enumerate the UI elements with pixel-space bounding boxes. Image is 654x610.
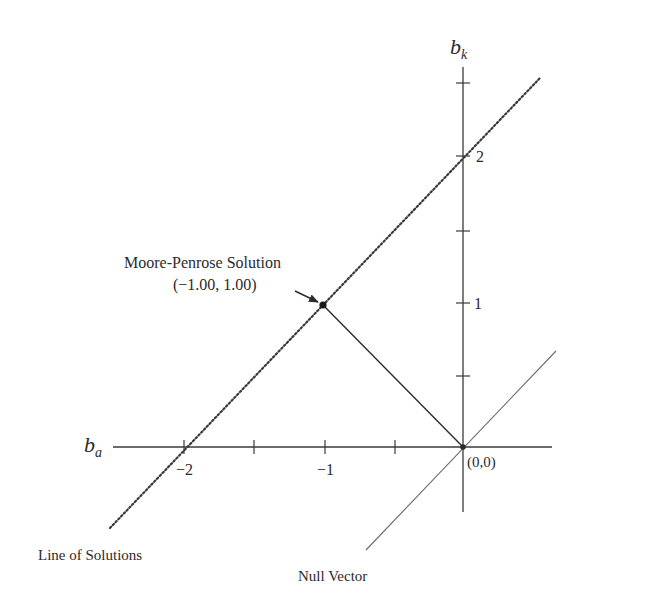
origin-label: (0,0) — [467, 454, 496, 471]
projection-segment — [323, 305, 463, 447]
x-tick-label-neg1: −1 — [317, 461, 334, 478]
line-of-solutions-label: Line of Solutions — [38, 547, 142, 563]
origin-point — [460, 444, 466, 450]
solution-diagram: bk ba −2 −1 2 1 (0,0) Moore-Penrose Solu… — [0, 0, 654, 610]
y-tick-label-1: 1 — [474, 295, 482, 312]
y-axis-label: bk — [450, 34, 468, 62]
y-tick-label-2: 2 — [476, 148, 484, 165]
moore-penrose-coords: (−1.00, 1.00) — [173, 276, 257, 294]
moore-penrose-arrow — [295, 291, 318, 302]
moore-penrose-point — [319, 301, 326, 308]
null-vector-label: Null Vector — [298, 568, 367, 584]
moore-penrose-title: Moore-Penrose Solution — [124, 254, 281, 271]
x-axis-label: ba — [84, 432, 102, 460]
x-tick-label-neg2: −2 — [176, 461, 193, 478]
